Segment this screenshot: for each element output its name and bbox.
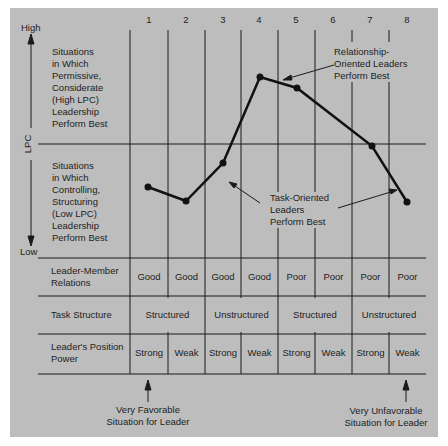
col-1-label: 1: [143, 14, 155, 26]
lpp-cell-6: Weak: [315, 347, 352, 359]
ts-cell-1-2: Structured: [130, 309, 205, 321]
lpp-cell-8: Weak: [389, 347, 426, 359]
col-6-label: 6: [327, 14, 339, 26]
relationship-oriented-annotation: Relationship- Oriented Leaders Perform B…: [334, 46, 407, 82]
lpp-cell-5: Strong: [278, 347, 315, 359]
col-5-label: 5: [290, 14, 302, 26]
very-unfavorable-label: Very Unfavorable Situation for Leader: [334, 405, 438, 429]
low-lpc-region-text: Situations in Which Controlling, Structu…: [52, 160, 107, 244]
axis-high-label: High: [21, 22, 41, 34]
lmr-cell-2: Good: [168, 271, 205, 283]
lpp-cell-3: Strong: [205, 347, 241, 359]
col-2-label: 2: [180, 14, 192, 26]
axis-lpc-label: LPC: [22, 134, 34, 154]
ts-cell-3-4: Unstructured: [205, 309, 278, 321]
ts-cell-7-8: Unstructured: [352, 309, 426, 321]
lmr-cell-8: Poor: [389, 271, 426, 283]
lpp-cell-1: Strong: [130, 347, 168, 359]
high-lpc-region-text: Situations in Which Permissive, Consider…: [52, 46, 107, 130]
ts-cell-5-6: Structured: [278, 309, 352, 321]
lmr-cell-4: Good: [241, 271, 278, 283]
col-8-label: 8: [401, 14, 413, 26]
col-7-label: 7: [364, 14, 376, 26]
col-4-label: 4: [253, 14, 265, 26]
lmr-cell-7: Poor: [352, 271, 389, 283]
position-power-header: Leader's Position Power: [51, 341, 124, 365]
task-oriented-annotation: Task-Oriented Leaders Perform Best: [268, 192, 331, 228]
lpp-cell-4: Weak: [241, 347, 278, 359]
lpp-cell-2: Weak: [168, 347, 205, 359]
leader-member-relations-header: Leader-Member Relations: [51, 265, 119, 289]
lmr-cell-3: Good: [205, 271, 241, 283]
lmr-cell-5: Poor: [278, 271, 315, 283]
lmr-cell-1: Good: [130, 271, 168, 283]
col-3-label: 3: [217, 14, 229, 26]
very-favorable-label: Very Favorable Situation for Leader: [98, 404, 198, 428]
task-structure-header: Task Structure: [51, 309, 112, 321]
lmr-cell-6: Poor: [315, 271, 352, 283]
axis-low-label: Low: [20, 246, 37, 258]
lpp-cell-7: Strong: [352, 347, 389, 359]
